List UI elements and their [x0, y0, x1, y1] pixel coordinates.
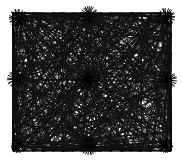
figure-container: Dense straight-line mesh diagram A recta…: [0, 0, 182, 160]
line-mesh-figure: [0, 0, 182, 160]
